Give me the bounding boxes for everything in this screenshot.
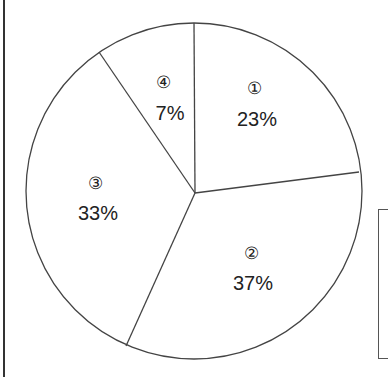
slice-2-marker: ② <box>244 245 259 262</box>
slice-2-percent: 37% <box>233 273 273 293</box>
slice-1-marker: ① <box>247 80 262 97</box>
slice-4-percent: 7% <box>156 103 185 123</box>
slice-3-marker: ③ <box>88 175 103 192</box>
slice-4-marker: ④ <box>156 74 171 91</box>
slice-1-percent: 23% <box>237 109 277 129</box>
slice-3-percent: 33% <box>78 203 118 223</box>
